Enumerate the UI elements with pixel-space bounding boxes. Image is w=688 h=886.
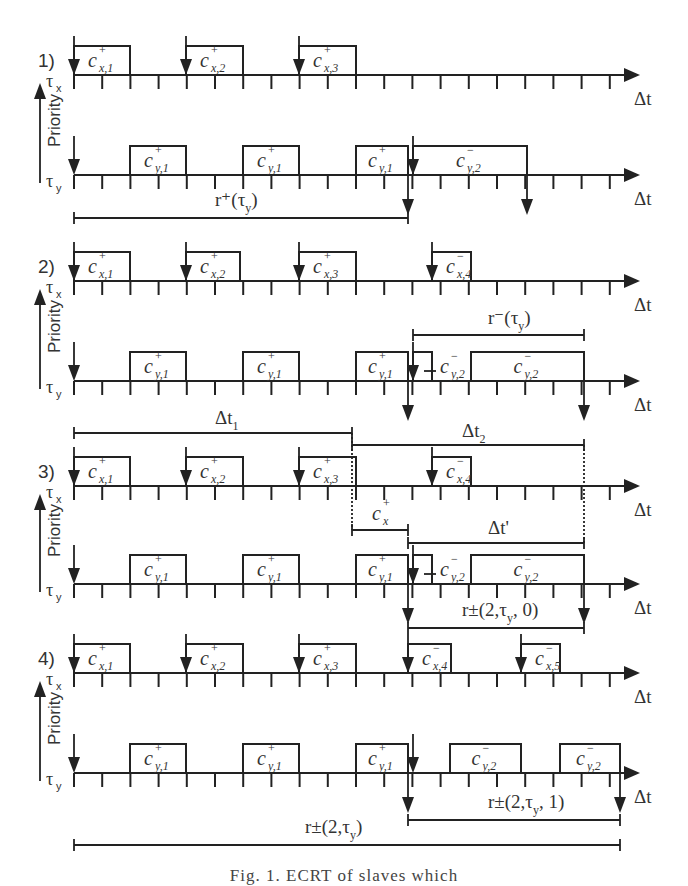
job-sub: y,1 [154, 759, 169, 773]
panel-1: 1)τxτyPriorityΔtΔtc+x,1c+x,2c+x,3c+y,1c+… [34, 36, 652, 224]
job-sup: + [268, 349, 275, 363]
axis-arrow-icon [624, 666, 640, 680]
job-symbol: c [472, 747, 481, 769]
panel-number: 1) [38, 50, 55, 71]
job-sub: x,3 [323, 267, 338, 281]
release-arrow-icon [293, 36, 305, 75]
deadline-arrow-icon [578, 381, 590, 421]
job-symbol: c [446, 460, 455, 482]
job-label: c+x,1 [88, 454, 113, 486]
release-arrow-icon [180, 447, 192, 486]
interval-span: r±(2,τy) [74, 816, 620, 851]
job-label: c−y,2 [440, 552, 465, 584]
job-symbol: c [368, 747, 377, 769]
job-sup: − [483, 741, 490, 755]
job-sup: − [525, 552, 532, 566]
job-sub: y,1 [267, 759, 282, 773]
axis-label: Δt [634, 786, 652, 807]
interval-span: Δt1 [74, 407, 352, 439]
job-sub: x,4 [456, 267, 471, 281]
job-sub: x,3 [323, 61, 338, 75]
task-y-label: τ [46, 377, 53, 397]
job-symbol: c [514, 558, 523, 580]
job-symbol: c [514, 355, 523, 377]
job-y: c+y,1 [356, 349, 408, 381]
job-sup: + [99, 641, 106, 655]
job-sup: + [324, 43, 331, 57]
task-y-label: τ [46, 171, 53, 191]
axis-label: Δt [634, 686, 652, 707]
job-sub: x,5 [545, 659, 560, 673]
job-sub: x,2 [210, 659, 225, 673]
job-sup: + [211, 641, 218, 655]
job-sub: y,1 [267, 570, 282, 584]
release-arrow-icon [68, 734, 80, 773]
span-label: r⁻(τy) [488, 307, 531, 333]
axis-label: Δt [634, 597, 652, 618]
job-sub: y,1 [378, 161, 393, 175]
job-y: c+y,1 [130, 552, 186, 584]
panel-number: 2) [38, 256, 55, 277]
job-symbol: c [313, 255, 322, 277]
job-y: c+y,1 [356, 741, 408, 773]
job-label: c+x,1 [88, 43, 113, 75]
job-symbol: c [368, 149, 377, 171]
job-x: c+x,1 [68, 634, 130, 673]
axis-label: Δt [634, 294, 652, 315]
job-sub: x,1 [98, 659, 113, 673]
job-label: c+y,1 [257, 552, 282, 584]
job-symbol: c [257, 747, 266, 769]
span-label: Δt1 [215, 407, 239, 433]
job-sup: + [155, 552, 162, 566]
job-sub: x,2 [210, 61, 225, 75]
release-arrow-icon [293, 242, 305, 281]
job-sub: x,3 [323, 659, 338, 673]
job-sub: y,2 [450, 367, 465, 381]
task-y-sub: y [56, 591, 62, 603]
priority-label: Priority [45, 94, 64, 147]
job-sup: + [324, 249, 331, 263]
job-symbol: c [88, 255, 97, 277]
job-symbol: c [88, 49, 97, 71]
job-y: c+y,1 [356, 143, 408, 175]
job-sub: x,4 [432, 659, 447, 673]
job-sub: y,1 [267, 161, 282, 175]
job-sup: + [211, 454, 218, 468]
job-label: c+x,3 [313, 43, 338, 75]
task-y-sub: y [56, 182, 62, 194]
release-arrow-icon [68, 447, 80, 486]
job-y: c+y,1 [243, 143, 299, 175]
interval-span: r±(2,τy, 1) [408, 791, 620, 826]
axis-label: Δt [634, 188, 652, 209]
job-label: c−y,2 [440, 349, 465, 381]
job-symbol: c [576, 747, 585, 769]
job-label: c−x,4 [446, 454, 471, 486]
task-y-sub: y [56, 780, 62, 792]
job-sup: + [211, 249, 218, 263]
task-x-sub: x [56, 493, 62, 505]
panel-number: 3) [38, 461, 55, 482]
job-y: c+y,1 [243, 741, 299, 773]
job-sub: y,2 [524, 570, 539, 584]
axis-arrow-icon [624, 577, 640, 591]
job-sub: x [382, 514, 389, 528]
job-label: c+y,1 [368, 143, 393, 175]
job-label: c+x,3 [313, 454, 338, 486]
span-label: r⁺(τy) [215, 189, 258, 215]
release-arrow-icon [515, 634, 527, 673]
span-label: r±(2,τy, 1) [488, 791, 564, 817]
job-symbol: c [446, 255, 455, 277]
interval-span: r⁺(τy) [74, 189, 408, 224]
job-sup: + [99, 249, 106, 263]
job-sub: x,1 [98, 472, 113, 486]
job-sup: + [268, 741, 275, 755]
job-sup: + [379, 143, 386, 157]
priority-label: Priority [45, 300, 64, 353]
release-arrow-icon [180, 634, 192, 673]
interval-span: Δt' [408, 517, 584, 549]
job-sup: + [155, 741, 162, 755]
job-symbol: c [368, 558, 377, 580]
job-sup: + [379, 349, 386, 363]
axis-arrow-icon [624, 479, 640, 493]
job-y: c+y,1 [243, 552, 299, 584]
